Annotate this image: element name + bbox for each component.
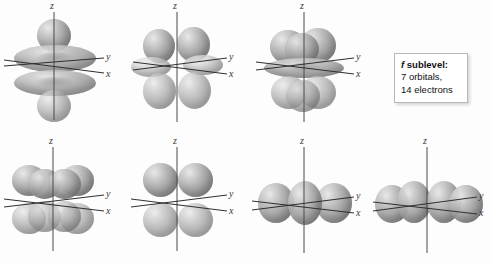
f-orbital-5-shape bbox=[123, 131, 246, 262]
f-orbital-4: z y x bbox=[0, 131, 123, 262]
f-orbital-2-shape bbox=[123, 0, 246, 131]
legend-orbitals-line: 7 orbitals, bbox=[401, 71, 461, 83]
f-orbital-3: z y x bbox=[252, 0, 375, 131]
f-orbital-5: z y x bbox=[123, 131, 246, 262]
f-orbital-1: z y x bbox=[0, 0, 123, 131]
f-orbital-4-shape bbox=[0, 131, 123, 262]
f-orbital-7-shape bbox=[369, 131, 492, 262]
legend-box: f sublevel: 7 orbitals, 14 electrons bbox=[394, 53, 468, 103]
f-orbital-figure: z y x z y x bbox=[0, 0, 492, 263]
legend-heading-rest: sublevel: bbox=[404, 59, 448, 70]
f-orbital-6-shape bbox=[248, 131, 371, 262]
legend-heading: f sublevel: bbox=[401, 59, 461, 71]
f-orbital-6: z y x bbox=[248, 131, 371, 262]
f-orbital-1-shape bbox=[0, 0, 123, 131]
legend-electrons-line: 14 electrons bbox=[401, 84, 461, 96]
f-orbital-2: z y x bbox=[123, 0, 246, 131]
f-orbital-3-shape bbox=[252, 0, 375, 131]
f-orbital-7: z y x bbox=[369, 131, 492, 262]
